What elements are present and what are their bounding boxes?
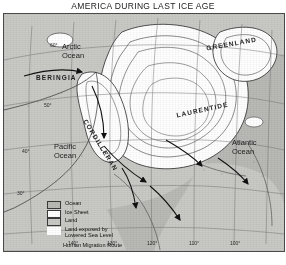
legend-item-land-exposed: Land exposed by Lowered Sea Level [47, 226, 182, 242]
label-atlantic-ocean: Atlantic Ocean [232, 138, 257, 156]
legend-item-migration: Human Migration Route [47, 242, 182, 250]
label-arctic-ocean: Arctic Ocean [62, 42, 84, 60]
legend-label-ice-sheet: Ice Sheet [65, 209, 89, 216]
lat-tick-60: 60° [50, 42, 58, 48]
ice-age-map-figure: AMERICA DURING LAST ICE AGE [0, 0, 286, 265]
legend-swatch-ocean [47, 201, 61, 209]
legend-item-ice-sheet: Ice Sheet [47, 209, 182, 217]
legend-label-migration: Human Migration Route [63, 242, 122, 249]
legend-swatch-land [47, 218, 61, 226]
lat-tick-40: 40° [22, 148, 30, 154]
legend-swatch-ice-sheet [47, 210, 61, 218]
lon-tick-100: 100° [230, 240, 240, 246]
figure-title: AMERICA DURING LAST ICE AGE [0, 1, 286, 11]
arrow-southeast [218, 158, 248, 184]
map-legend: Ocean Ice Sheet Land Land exposed by Low… [47, 200, 182, 251]
map-canvas: Arctic Ocean Pacific Ocean Atlantic Ocea… [3, 13, 285, 252]
lat-tick-30: 30° [17, 190, 25, 196]
legend-swatch-migration-arrow [47, 243, 59, 249]
legend-label-land-exposed: Land exposed by Lowered Sea Level [65, 226, 113, 239]
legend-item-land: Land [47, 217, 182, 225]
label-pacific-ocean: Pacific Ocean [54, 142, 76, 160]
arrow-east [166, 140, 202, 166]
lon-tick-110: 110° [189, 240, 199, 246]
legend-label-land: Land [65, 217, 77, 224]
legend-label-ocean: Ocean [65, 200, 81, 207]
migration-arrow-icon [47, 251, 59, 252]
legend-swatch-land-exposed [47, 227, 61, 235]
label-beringia: BERINGIA [36, 74, 77, 81]
lat-tick-50: 50° [44, 102, 52, 108]
legend-item-ocean: Ocean [47, 200, 182, 208]
